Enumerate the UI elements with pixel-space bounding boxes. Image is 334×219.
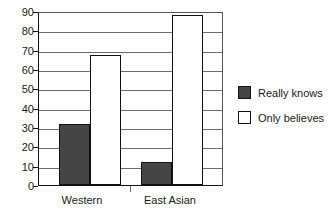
x-tick-mark xyxy=(130,186,131,192)
y-tick-label: 30 xyxy=(0,123,34,134)
y-tick-label: 40 xyxy=(0,103,34,114)
plot-area xyxy=(38,12,223,186)
y-tick-label: 0 xyxy=(0,181,34,192)
y-tick-mark xyxy=(33,186,38,187)
bar-chart: 90 80 70 60 50 40 30 20 10 0 Wester xyxy=(0,0,334,219)
y-tick-label: 90 xyxy=(0,7,34,18)
legend-item-really-knows: Really knows xyxy=(238,80,334,105)
legend-label: Only believes xyxy=(258,112,324,124)
bar-east-asian-only-believes xyxy=(172,15,203,185)
y-tick-label: 50 xyxy=(0,84,34,95)
legend-swatch-filled-icon xyxy=(238,86,251,99)
y-tick-label: 60 xyxy=(0,65,34,76)
x-axis-label-western: Western xyxy=(41,194,123,206)
legend: Really knows Only believes xyxy=(238,80,334,130)
bar-east-asian-really-knows xyxy=(141,162,172,185)
y-axis: 90 80 70 60 50 40 30 20 10 0 xyxy=(0,0,34,219)
legend-item-only-believes: Only believes xyxy=(238,105,334,130)
y-tick-label: 80 xyxy=(0,26,34,37)
y-tick-label: 10 xyxy=(0,161,34,172)
bar-western-only-believes xyxy=(90,55,121,185)
legend-label: Really knows xyxy=(258,87,323,99)
y-tick-label: 20 xyxy=(0,142,34,153)
legend-swatch-hollow-icon xyxy=(238,111,251,124)
bar-western-really-knows xyxy=(59,124,90,185)
x-axis-label-east-asian: East Asian xyxy=(125,194,215,206)
y-tick-label: 70 xyxy=(0,45,34,56)
